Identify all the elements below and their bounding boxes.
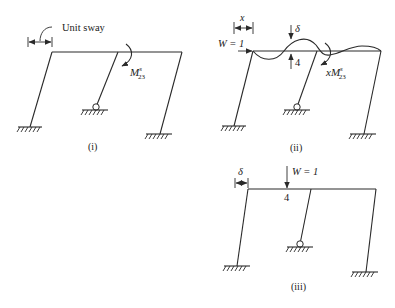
pin-support-icon bbox=[283, 104, 310, 115]
node-label: 4 bbox=[284, 192, 290, 203]
influence-line bbox=[253, 39, 381, 59]
left-column bbox=[234, 51, 253, 126]
panel-iii: δ W = 1 4 (iii) bbox=[223, 166, 378, 293]
fixed-support-icon bbox=[351, 272, 378, 277]
x-dimension bbox=[234, 22, 253, 34]
load-label: W = 1 bbox=[218, 38, 244, 49]
caption-ii: (ii) bbox=[290, 142, 302, 154]
moment-label: Ms23 bbox=[129, 65, 145, 81]
left-column bbox=[237, 189, 248, 266]
delta-dimension bbox=[235, 178, 248, 188]
delta-label: δ bbox=[238, 166, 244, 177]
unit-sway-label: Unit sway bbox=[62, 22, 106, 33]
moment-arrow-icon bbox=[122, 44, 132, 66]
panel-ii: x W = 1 δ 4 xMs23 (ii) bbox=[218, 12, 381, 154]
fixed-support-icon bbox=[17, 127, 42, 132]
fixed-support-icon bbox=[145, 134, 172, 139]
structural-frame-figure: Unit sway Ms23 (i) bbox=[0, 0, 395, 308]
load-label: W = 1 bbox=[292, 166, 318, 177]
delta-label: δ bbox=[295, 23, 301, 34]
middle-column bbox=[300, 189, 311, 244]
caption-iii: (iii) bbox=[291, 281, 306, 293]
moment-label: xMs23 bbox=[325, 65, 346, 81]
node-label: 4 bbox=[295, 57, 301, 68]
pin-support-icon bbox=[286, 241, 313, 252]
fixed-support-icon bbox=[223, 266, 250, 271]
pin-support-icon bbox=[81, 104, 108, 115]
right-column bbox=[160, 52, 182, 134]
unit-sway-dimension bbox=[28, 27, 52, 47]
caption-i: (i) bbox=[88, 141, 97, 153]
right-column bbox=[366, 189, 376, 272]
panel-i: Unit sway Ms23 (i) bbox=[17, 22, 182, 153]
middle-column bbox=[96, 52, 118, 107]
left-column bbox=[30, 52, 52, 127]
moment-arrow-icon bbox=[321, 43, 331, 65]
right-column bbox=[364, 51, 381, 134]
x-label: x bbox=[239, 12, 245, 23]
fixed-support-icon bbox=[221, 126, 246, 131]
fixed-support-icon bbox=[349, 134, 376, 139]
